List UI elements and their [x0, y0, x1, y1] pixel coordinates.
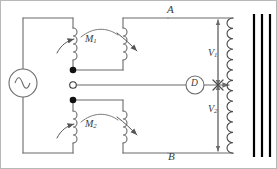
coil-m1-primary: [73, 28, 77, 60]
label-m2-sub: 2: [93, 122, 96, 129]
transformer-core: [254, 14, 270, 157]
coil-m2-primary: [73, 111, 77, 143]
label-mutual-m1: M1: [85, 34, 97, 45]
junction-bottom-dot: [70, 97, 77, 104]
label-node-b: B: [168, 151, 175, 162]
ac-source: [9, 69, 37, 97]
figure-canvas: A B M1 M2 V1 V2 D: [0, 0, 277, 169]
m1-primary-variable-arrow: [57, 39, 74, 53]
label-detector: D: [191, 79, 198, 89]
label-v2-sub: 2: [214, 107, 217, 114]
m2-primary-variable-arrow: [57, 124, 74, 138]
coil-m1-secondary: [123, 28, 127, 60]
junction-top-dot: [70, 67, 77, 74]
label-voltage-v2: V2: [208, 104, 218, 115]
coil-m2-secondary: [123, 111, 127, 143]
centre-tap-node: [70, 82, 77, 89]
transformer-winding: [227, 18, 233, 153]
label-voltage-v1: V1: [208, 48, 218, 59]
label-v1-sub: 1: [214, 51, 217, 58]
label-node-a: A: [167, 4, 174, 15]
circuit-diagram-svg: [1, 1, 277, 169]
label-mutual-m2: M2: [85, 119, 97, 130]
label-m1-sub: 1: [93, 37, 96, 44]
